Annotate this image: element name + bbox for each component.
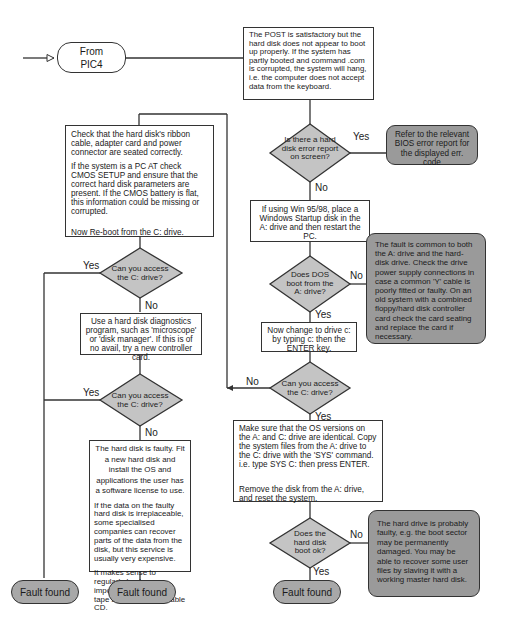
common-fault-note: The fault is common to both the A: drive… [366, 233, 486, 344]
start-terminal: From PIC4 [57, 42, 126, 73]
fault-found-terminal-1: Fault found [11, 580, 79, 604]
decision-access-c-left2-yes: Yes [83, 387, 99, 398]
bios-note-text: Refer to the relevant BIOS error report … [395, 130, 470, 167]
check-cable-box: Check that the hard disk's ribbon cable,… [65, 125, 214, 237]
decision-error-report-text: Is there a hard disk error report on scr… [280, 136, 340, 162]
post-box: The POST is satisfactory but the hard di… [243, 27, 374, 100]
hd-faulty-note: The hard drive is probably faulty, e.g. … [368, 510, 480, 597]
bios-note: Refer to the relevant BIOS error report … [386, 125, 478, 165]
faulty-disk-para2: If the data on the faulty hard disk is i… [94, 502, 186, 564]
win-startup-box: If using Win 95/98, place a Windows Star… [250, 200, 370, 242]
decision-access-c-right-text: Can you access the C: drive? [280, 380, 340, 397]
change-drive-text: Now change to drive c: by typing c: then… [267, 326, 350, 353]
diagnostics-box: Use a hard disk diagnostics program, suc… [80, 313, 202, 355]
hd-faulty-text: The hard drive is probably faulty, e.g. … [377, 519, 468, 584]
decision-dos-boot-yes: Yes [315, 309, 331, 320]
decision-hd-boot-yes: Yes [313, 566, 329, 577]
fault-found-terminal-2: Fault found [108, 580, 176, 604]
post-box-text: The POST is satisfactory but the hard di… [249, 30, 366, 91]
fault-found-label-3: Fault found [282, 587, 332, 598]
decision-dos-boot-text: Does DOS boot from the A: drive? [284, 271, 336, 297]
fault-found-terminal-3: Fault found [273, 580, 341, 604]
faulty-disk-box: The hard disk is faulty. Fit a new hard … [89, 440, 191, 572]
decision-access-c-right-no: No [246, 376, 259, 387]
decision-access-c-left2-text: Can you access the C: drive? [110, 392, 170, 409]
sys-box-para2: Remove the disk from the A: drive, and r… [239, 485, 377, 503]
start-label-line2: PIC4 [80, 58, 102, 71]
decision-error-report-yes: Yes [353, 131, 369, 142]
decision-hd-boot-no: No [350, 529, 363, 540]
decision-access-c-left1-no: No [145, 300, 158, 311]
check-cable-para3: Now Re-boot from the C: drive. [71, 228, 208, 237]
faulty-disk-para1: The hard disk is faulty. Fit a new hard … [94, 444, 186, 497]
sys-box: Make sure that the OS versions on the A:… [233, 420, 383, 502]
decision-hd-boot-text: Does the hard disk boot ok? [286, 530, 334, 556]
check-cable-para1: Check that the hard disk's ribbon cable,… [71, 130, 208, 157]
decision-access-c-left2-no: No [145, 427, 158, 438]
start-label-line1: From [80, 45, 103, 58]
common-fault-text: The fault is common to both the A: drive… [375, 240, 474, 341]
decision-dos-boot-no: No [350, 270, 363, 281]
decision-access-c-left1-text: Can you access the C: drive? [110, 265, 170, 282]
decision-error-report-no: No [315, 182, 328, 193]
win-startup-text: If using Win 95/98, place a Windows Star… [259, 205, 360, 241]
fault-found-label-2: Fault found [117, 587, 167, 598]
change-drive-box: Now change to drive c: by typing c: then… [261, 322, 357, 352]
fault-found-label-1: Fault found [20, 587, 70, 598]
decision-access-c-left1-yes: Yes [83, 260, 99, 271]
sys-box-para1: Make sure that the OS versions on the A:… [239, 424, 377, 469]
check-cable-para2: If the system is a PC AT check CMOS SETU… [71, 162, 208, 216]
